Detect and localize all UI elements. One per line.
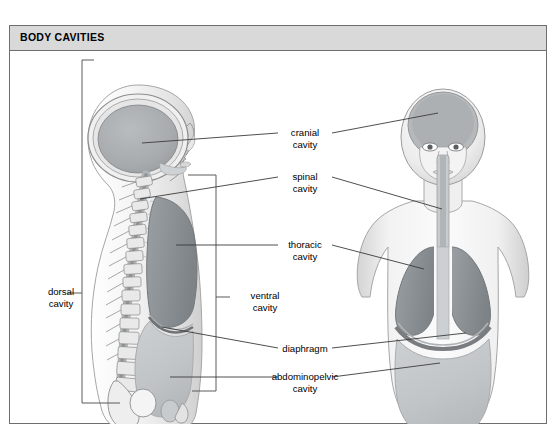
anterior-view-figure — [357, 89, 529, 424]
label-diaphragm: diaphragm — [276, 343, 334, 355]
body-cavities-illustration — [10, 51, 546, 424]
cranial-cavity-inner-anterior — [412, 94, 474, 152]
figure-artwork-area: dorsal cavity ventral cavity cranial cav… — [10, 51, 546, 424]
label-dorsal-cavity: dorsal cavity — [32, 286, 90, 309]
label-ventral-cavity: ventral cavity — [236, 290, 294, 313]
label-thoracic-cavity: thoracic cavity — [276, 239, 334, 262]
spinal-cord-column-anterior — [440, 155, 446, 261]
lateral-lips — [180, 162, 191, 167]
lateral-view-figure — [88, 85, 202, 424]
figure-titlebar: BODY CAVITIES — [10, 26, 546, 51]
label-spinal-cavity: spinal cavity — [276, 171, 334, 194]
cranial-cavity-region-lateral — [98, 105, 178, 173]
label-cranial-cavity: cranial cavity — [276, 127, 334, 150]
figure-panel: BODY CAVITIES — [9, 25, 547, 424]
lateral-pelvic-inlet — [130, 389, 156, 417]
figure-title: BODY CAVITIES — [20, 31, 105, 43]
anterior-mediastinum-column — [437, 247, 449, 339]
label-abdominopelvic-cavity: abdominopelvic cavity — [262, 371, 348, 394]
